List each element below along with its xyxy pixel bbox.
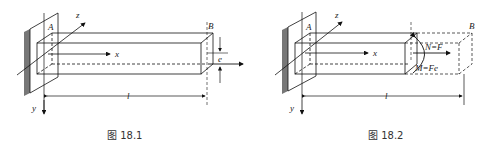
label-e: e bbox=[218, 54, 222, 64]
label-y: y bbox=[289, 103, 294, 113]
label-M: M=Fe bbox=[414, 63, 438, 73]
figure-caption: 图 18.1 bbox=[107, 130, 142, 141]
label-z: z bbox=[75, 10, 80, 20]
label-x: x bbox=[114, 49, 119, 59]
label-A: A bbox=[47, 22, 54, 32]
label-N: N=F bbox=[424, 42, 443, 52]
label-y: y bbox=[31, 103, 36, 113]
label-z: z bbox=[334, 10, 339, 20]
label-A: A bbox=[305, 22, 312, 32]
beam-segment bbox=[295, 33, 417, 74]
figure-18-1: A B z x y l e F 图 18.1 bbox=[0, 0, 245, 151]
label-x: x bbox=[372, 48, 377, 58]
figure-caption: 图 18.2 bbox=[368, 130, 403, 141]
figure-18-2: F bbox=[245, 0, 490, 151]
label-B: B bbox=[469, 21, 475, 31]
cantilever-diagram-eccentric-load: A B z x y l e F 图 18.1 bbox=[0, 0, 245, 151]
cantilever-diagram-internal-forces: F bbox=[245, 0, 490, 151]
label-B: B bbox=[208, 21, 214, 31]
